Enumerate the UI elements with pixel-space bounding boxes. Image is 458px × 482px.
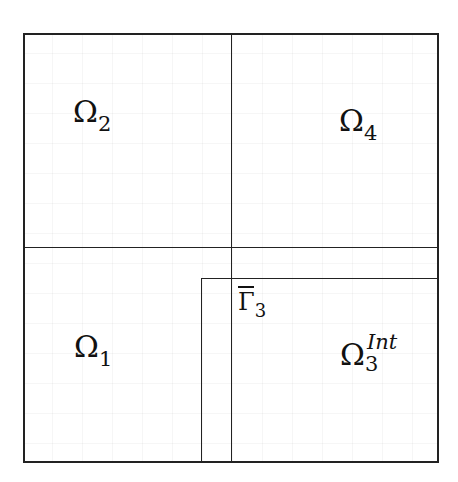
subscript: 3: [255, 300, 266, 321]
region-label-omega-1: Ω1: [74, 332, 112, 370]
superscript: Int: [367, 332, 397, 353]
subscript: 1: [99, 347, 112, 371]
horizontal-divider: [23, 247, 438, 248]
subscript: 4: [364, 121, 377, 145]
diagram-canvas: Ω2 Ω4 Ω1 ΩInt3 Γ 3: [0, 0, 458, 482]
omega-symbol: Ω: [339, 103, 364, 138]
inner-box-top: [201, 278, 438, 279]
overline: [238, 286, 254, 288]
omega-symbol: Ω: [340, 337, 365, 372]
boundary-label-gamma-3: Γ 3: [238, 290, 266, 320]
script-stack: Int3: [365, 340, 419, 370]
omega-symbol: Ω: [74, 329, 99, 364]
subscript: 2: [98, 112, 111, 136]
gamma-symbol: Γ: [238, 288, 255, 316]
subscript: 3: [365, 354, 378, 375]
region-label-omega-4: Ω4: [339, 106, 377, 144]
region-label-omega-2: Ω2: [73, 97, 111, 135]
region-label-omega-3-int: ΩInt3: [340, 340, 419, 370]
omega-symbol: Ω: [73, 94, 98, 129]
inner-box-left: [201, 278, 202, 462]
